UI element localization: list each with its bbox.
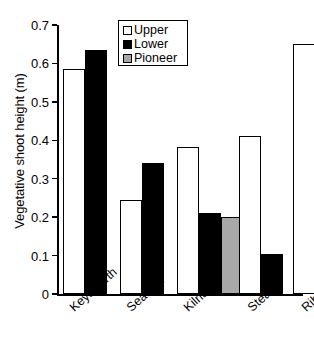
y-tick-mark [52, 63, 57, 65]
bar-ribble-upper [293, 44, 314, 294]
y-tick-mark [52, 140, 57, 142]
y-tick-mark [52, 293, 57, 295]
bar-seafield-upper [120, 200, 142, 294]
legend-item-lower: Lower [123, 37, 187, 51]
y-tick-label: 0.6 [31, 56, 49, 71]
bar-steart-upper [239, 136, 261, 294]
bar-seafield-lower [142, 163, 164, 294]
y-tick-mark [52, 178, 57, 180]
legend-swatch-pioneer-icon [123, 54, 132, 63]
bar-kilnsea-upper [177, 147, 199, 294]
y-tick-label: 0.1 [31, 248, 49, 263]
legend-label-pioneer: Pioneer [134, 52, 177, 65]
bar-keysworth-lower [85, 50, 107, 294]
y-tick-label: 0.2 [31, 210, 49, 225]
bar-keysworth-upper [63, 69, 85, 294]
chart-figure: Vegetative shoot height (m) 00.10.20.30.… [0, 0, 314, 361]
y-axis-title: Vegetative shoot height (m) [8, 6, 30, 296]
legend-item-pioneer: Pioneer [123, 51, 187, 65]
legend: Upper Lower Pioneer [118, 20, 188, 66]
y-tick-mark [52, 216, 57, 218]
legend-label-upper: Upper [134, 24, 168, 37]
y-tick-label: 0.3 [31, 171, 49, 186]
y-tick-label: 0.7 [31, 18, 49, 33]
legend-swatch-upper-icon [123, 26, 132, 35]
legend-label-lower: Lower [134, 38, 168, 51]
legend-item-upper: Upper [123, 23, 187, 37]
y-axis-line [57, 25, 59, 295]
y-tick-mark [52, 24, 57, 26]
y-tick-label: 0.5 [31, 94, 49, 109]
y-tick-label: 0 [42, 287, 49, 302]
y-tick-label: 0.4 [31, 133, 49, 148]
legend-swatch-lower-icon [123, 40, 132, 49]
y-tick-mark [52, 101, 57, 103]
y-tick-mark [52, 255, 57, 257]
